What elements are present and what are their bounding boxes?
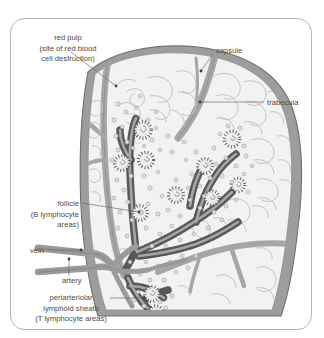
label-artery: artery [62, 276, 82, 285]
label-artery-line-1: artery [62, 276, 82, 285]
leader-dot-vein [80, 249, 83, 252]
leader-dot-artery [68, 258, 71, 261]
label-vein: vein [30, 246, 44, 255]
follicle-node [169, 188, 184, 203]
leader-dot-capsule [200, 70, 203, 73]
label-red-pulp-line-2: (site of red blood [40, 44, 97, 53]
leader-dot-trabecula [199, 101, 202, 104]
label-pals-line-3: (T lymphocyte areas) [35, 314, 107, 323]
label-vein-line-1: vein [30, 246, 44, 255]
follicle-node [115, 156, 130, 171]
leader-dot-red-pulp [115, 85, 118, 88]
label-capsule-line-1: capsule [216, 46, 242, 55]
follicle-node [205, 191, 219, 205]
label-follicle-line-2: (B lymphocyte [31, 210, 79, 219]
follicle-node [198, 159, 213, 174]
label-red-pulp-line-1: red pulp [54, 33, 82, 42]
follicle-node [145, 287, 160, 302]
label-follicle-line-3: areas) [57, 220, 79, 229]
spleen-diagram-figure: red pulp (site of red blood cell destruc… [0, 0, 324, 338]
follicle-node [135, 122, 151, 138]
follicle-node [224, 131, 240, 147]
leader-dot-follicle [138, 211, 141, 214]
label-capsule: capsule [216, 46, 242, 55]
follicle-node [231, 178, 245, 192]
label-red-pulp-line-3: cell destruction) [41, 54, 95, 63]
follicle-node [138, 152, 153, 167]
spleen-diagram-canvas: red pulp (site of red blood cell destruc… [0, 0, 324, 338]
label-pals-line-2: lymphoid sheath [43, 304, 99, 313]
label-trabecula-line-1: trabecula [267, 98, 299, 107]
label-follicle-line-1: follicle [58, 199, 79, 208]
label-trabecula: trabecula [267, 98, 299, 107]
hilum-branch-right [114, 270, 148, 272]
label-pals-line-1: periarteriolar [50, 293, 93, 302]
follicle-node-labeled [133, 206, 148, 221]
leader-dot-pals [143, 297, 146, 300]
